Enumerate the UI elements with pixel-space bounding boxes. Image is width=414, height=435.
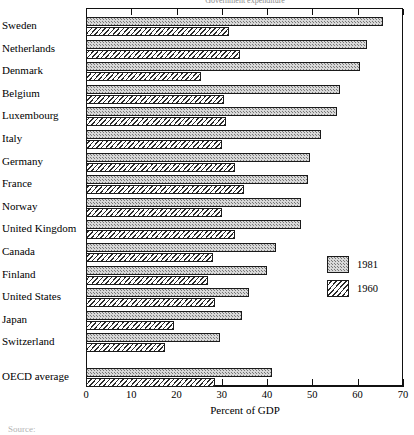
category-label: Italy [2, 132, 82, 144]
source-note: Source: [8, 424, 408, 435]
x-tick-label-0: 0 [71, 389, 101, 400]
x-tick-label-20: 20 [162, 389, 192, 400]
bar-group [86, 17, 403, 37]
x-tick-label-30: 30 [207, 389, 237, 400]
bar-1981 [86, 175, 308, 184]
legend-swatch-1960 [327, 280, 349, 297]
category-label: Finland [2, 268, 82, 280]
bar-1960 [86, 27, 229, 36]
category-label: United Kingdom [2, 222, 82, 234]
bar-1981 [86, 288, 249, 297]
bar-1960 [86, 298, 215, 307]
bar-1981 [86, 62, 360, 71]
x-tick-top-70 [403, 9, 404, 15]
bar-group [86, 368, 403, 388]
bar-1981 [86, 333, 220, 342]
category-label: Sweden [2, 19, 82, 31]
bar-1981 [86, 130, 321, 139]
chart-title: Government expenditure [86, 0, 404, 5]
bar-group [86, 62, 403, 82]
bar-group [86, 40, 403, 60]
bar-group [86, 175, 403, 195]
bar-1960 [86, 230, 235, 239]
bar-1981 [86, 17, 383, 26]
bars-layer [86, 8, 403, 385]
bar-1960 [86, 140, 222, 149]
category-label: OECD average [2, 370, 82, 382]
category-label: Luxembourg [2, 109, 82, 121]
bar-1960 [86, 50, 240, 59]
category-label: France [2, 177, 82, 189]
legend-label-1960: 1960 [357, 282, 378, 295]
bar-1981 [86, 85, 340, 94]
x-tick-label-10: 10 [116, 389, 146, 400]
bar-1981 [86, 198, 301, 207]
bar-group [86, 333, 403, 353]
category-label: Netherlands [2, 42, 82, 54]
legend-item-1981: 1981 [327, 256, 401, 275]
bar-1981 [86, 311, 242, 320]
bar-1981 [86, 107, 337, 116]
bar-1960 [86, 72, 201, 81]
bar-1960 [86, 117, 226, 126]
bar-1960 [86, 95, 224, 104]
bar-1981 [86, 220, 301, 229]
legend-swatch-1981 [327, 256, 349, 273]
category-label: Japan [2, 313, 82, 325]
category-label: Norway [2, 200, 82, 212]
bar-1981 [86, 40, 367, 49]
bar-1981 [86, 243, 276, 252]
bar-1960 [86, 343, 165, 352]
x-tick-label-70: 70 [388, 389, 414, 400]
bar-1981 [86, 266, 267, 275]
category-label: Belgium [2, 87, 82, 99]
bar-group [86, 107, 403, 127]
bar-1960 [86, 276, 208, 285]
bar-1960 [86, 321, 174, 330]
legend-item-1960: 1960 [327, 280, 401, 299]
bar-group [86, 153, 403, 173]
bar-1960 [86, 253, 213, 262]
bar-1960 [86, 208, 222, 217]
bar-group [86, 85, 403, 105]
bar-1981 [86, 368, 272, 377]
bar-1960 [86, 185, 244, 194]
bar-group [86, 198, 403, 218]
category-label: Germany [2, 155, 82, 167]
bar-chart: Government expenditure 010203040506070 S… [0, 0, 414, 435]
bar-1960 [86, 163, 235, 172]
bar-group [86, 220, 403, 240]
bar-1981 [86, 153, 310, 162]
category-label: Switzerland [2, 335, 82, 347]
x-axis-title: Percent of GDP [86, 404, 404, 417]
chart-legend: 1981 1960 [327, 256, 401, 306]
x-tick-label-40: 40 [252, 389, 282, 400]
bar-group [86, 311, 403, 331]
legend-label-1981: 1981 [357, 258, 378, 271]
category-label: Canada [2, 245, 82, 257]
x-tick-label-60: 60 [343, 389, 373, 400]
x-tick-70 [403, 379, 404, 385]
bar-1960 [86, 378, 215, 387]
x-tick-label-50: 50 [297, 389, 327, 400]
category-label: United States [2, 290, 82, 302]
bar-group [86, 130, 403, 150]
category-label: Denmark [2, 64, 82, 76]
